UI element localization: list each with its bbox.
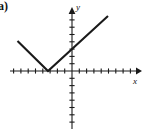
coordinate-plane-figure: y x <box>0 0 145 130</box>
x-axis-label: x <box>132 76 137 86</box>
y-axis-label: y <box>75 2 80 12</box>
x-axis-arrowhead <box>136 68 142 75</box>
axes-group <box>10 10 136 129</box>
plot-curve-v-shape <box>18 16 109 71</box>
figure-container: a) <box>0 0 145 130</box>
y-axis-arrowhead <box>69 7 76 14</box>
